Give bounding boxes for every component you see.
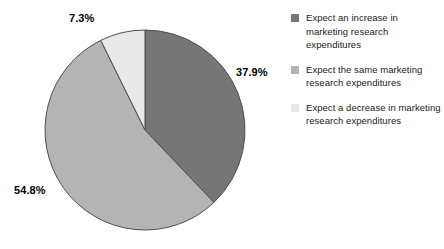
legend-swatch-decrease [291,104,299,112]
legend-label-decrease: Expect a decrease in marketing research … [306,101,441,128]
slice-value-label-same: 54.8% [14,184,46,196]
legend-item-same: Expect the same marketing research expen… [291,63,441,90]
pie-plot-area: 37.9% 54.8% 7.3% [0,0,250,249]
pie-chart: 37.9% 54.8% 7.3% Expect an increase in m… [0,0,444,249]
pie-svg [0,0,250,249]
legend-item-decrease: Expect a decrease in marketing research … [291,101,441,128]
legend-label-increase: Expect an increase in marketing research… [306,11,441,52]
legend-swatch-increase [291,14,299,22]
legend-swatch-same [291,66,299,74]
slice-value-label-increase: 37.9% [236,66,268,78]
slice-value-label-decrease: 7.3% [69,12,94,24]
pie-slice-group [45,30,245,230]
chart-legend: Expect an increase in marketing research… [291,11,441,139]
legend-item-increase: Expect an increase in marketing research… [291,11,441,52]
legend-label-same: Expect the same marketing research expen… [306,63,441,90]
